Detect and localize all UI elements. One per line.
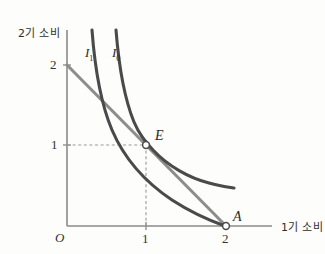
indifference-curve-figure: 2기 소비 1기 소비 2 1 1 2 O I1 I0 E A (0, 0, 325, 254)
curve-label-I0: I0 (112, 46, 120, 63)
curve-label-I0-sub: 0 (116, 54, 120, 63)
y-tick-label-2: 2 (50, 58, 57, 71)
x-tick-label-1: 1 (142, 232, 149, 245)
point-label-A: A (233, 210, 242, 224)
point-label-E: E (155, 129, 164, 143)
x-axis-title: 1기 소비 (281, 222, 323, 233)
curve-label-I1: I1 (85, 46, 93, 63)
curve-label-I1-sub: 1 (89, 54, 93, 63)
origin-label: O (55, 231, 64, 244)
x-tick-label-2: 2 (222, 232, 229, 245)
y-tick-label-1: 1 (51, 138, 58, 151)
point-marker-A (223, 223, 230, 230)
y-axis-title: 2기 소비 (18, 28, 60, 39)
point-marker-E (143, 142, 150, 149)
